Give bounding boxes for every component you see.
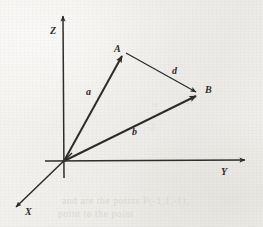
vector-arrow-a xyxy=(64,56,122,161)
axis-line-x xyxy=(16,153,72,207)
vector-label-a: a xyxy=(86,87,91,97)
point-label-a: A xyxy=(114,44,121,54)
vector-label-b: b xyxy=(132,127,137,137)
point-label-b: B xyxy=(205,85,212,95)
axis-label-x: X xyxy=(25,207,32,217)
axis-label-y: Y xyxy=(221,167,227,177)
vector-arrow-d xyxy=(126,53,196,92)
axis-line-z xyxy=(63,16,64,178)
axis-line-y xyxy=(45,160,245,161)
figure-page: + = 2 and are the points P(-1,1,-1), poi… xyxy=(0,0,263,227)
vector-diagram-svg xyxy=(0,0,263,227)
vector-label-d: d xyxy=(172,66,177,76)
axis-label-z: Z xyxy=(50,26,56,36)
vector-arrow-b xyxy=(64,96,196,161)
